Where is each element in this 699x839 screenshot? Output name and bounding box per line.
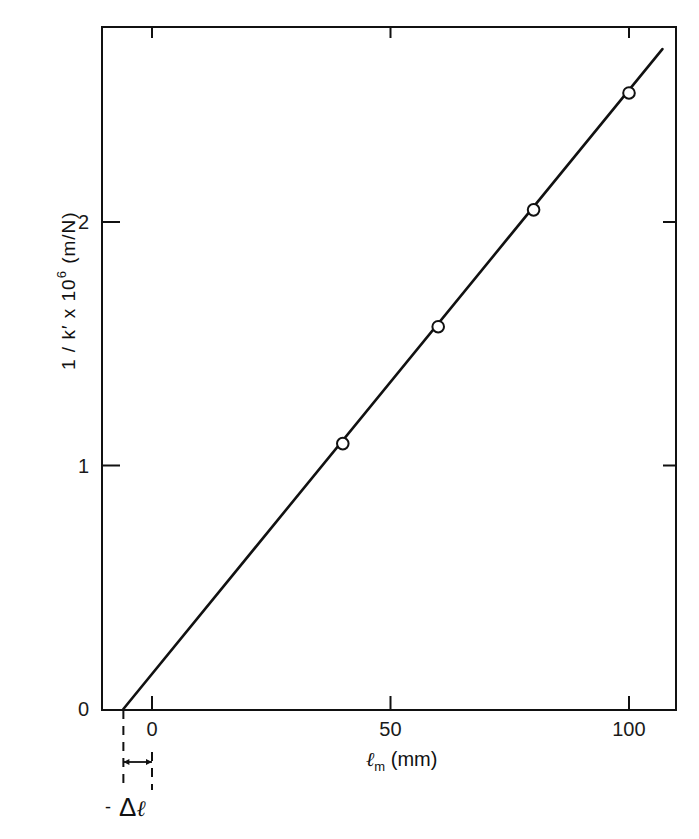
x-tick-label: 50 [379, 719, 401, 739]
data-points [337, 87, 635, 449]
plot-border [102, 27, 676, 710]
y-tick-label: 1 [78, 456, 89, 476]
y-axis-title: 1 / k′ x 106 (m/N) [56, 211, 80, 370]
x-title-subscript: m [374, 759, 385, 774]
y-tick-label: 0 [78, 699, 89, 719]
delta-symbol: Δ [119, 792, 136, 822]
x-axis-title: ℓm (mm) [366, 747, 437, 774]
y-title-unit: (m/N) [58, 211, 79, 270]
regression-line [123, 49, 662, 709]
tick-marks [102, 27, 676, 710]
delta-ell: ℓ [136, 796, 145, 821]
data-point-marker [623, 87, 635, 99]
y-title-main: 1 / k′ x 10 [58, 278, 79, 370]
fit-line [123, 49, 662, 709]
x-tick-label: 100 [612, 719, 645, 739]
y-title-exponent: 6 [54, 270, 69, 278]
data-point-marker [528, 204, 540, 216]
data-point-marker [337, 438, 349, 450]
x-title-unit: (mm) [385, 748, 437, 770]
x-tick-label: 0 [146, 719, 157, 739]
axes-frame [102, 27, 676, 710]
delta-minus: - [105, 797, 111, 817]
data-point-marker [432, 321, 444, 333]
delta-l-label: -Δℓ [105, 792, 146, 823]
chart-plot [0, 0, 699, 839]
